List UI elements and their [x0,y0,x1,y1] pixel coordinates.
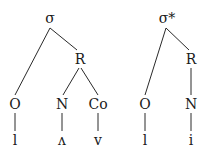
edge-sigma-rime [50,28,77,50]
edge-rime-nucleus [63,68,79,95]
node-sigma: σ [45,10,55,26]
tree-1-labels: σ R O N Co l ʌ v [9,10,107,148]
segment-onset-2: l [143,132,148,148]
tree-2-edges [145,28,191,131]
node-sigma-star: σ* [159,10,176,26]
edge-rime-coda [81,68,98,95]
node-rime: R [75,51,86,67]
node-onset: O [9,96,20,112]
segment-nucleus-2: i [189,132,194,148]
edge-sigma-onset [15,28,50,95]
edge-sigma-star-onset [145,28,166,95]
tree-1-edges [15,28,98,131]
node-onset-2: O [139,96,150,112]
segment-coda: v [93,132,102,148]
node-nucleus: N [56,96,68,112]
node-coda: Co [88,96,107,112]
edge-sigma-star-rime [166,28,189,50]
segment-nucleus: ʌ [57,132,66,148]
node-rime-2: R [186,51,197,67]
node-nucleus-2: N [185,96,197,112]
segment-onset: l [13,132,18,148]
syllable-tree-diagram: σ R O N Co l ʌ v σ* R O N l i [0,0,207,158]
